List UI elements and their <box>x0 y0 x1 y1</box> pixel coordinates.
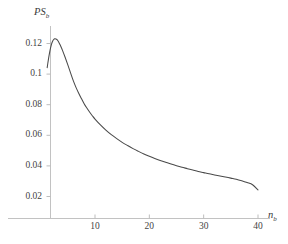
x-tick-label: 40 <box>246 221 270 231</box>
y-axis-title: PSb <box>34 6 49 20</box>
y-tick-label: 0.02 <box>8 191 42 201</box>
y-tick-label: 0.08 <box>8 99 42 109</box>
x-axis-title-subscript: b <box>273 215 277 223</box>
plot-area <box>0 0 288 244</box>
y-tick-label: 0.06 <box>8 129 42 139</box>
x-tick-label: 20 <box>137 221 161 231</box>
axes-group <box>8 26 270 219</box>
x-tick-label: 10 <box>83 221 107 231</box>
y-tick-label: 0.04 <box>8 160 42 170</box>
y-axis-title-subscript: b <box>46 12 50 20</box>
x-tick-marks <box>95 215 258 219</box>
x-axis-title: nb <box>268 209 277 223</box>
chart-figure: 0.020.040.060.080.10.12 10203040 PSb nb <box>0 0 288 244</box>
y-tick-label: 0.1 <box>8 68 42 78</box>
x-tick-label: 30 <box>192 221 216 231</box>
y-axis-title-base: PS <box>34 6 46 17</box>
y-tick-label: 0.12 <box>8 38 42 48</box>
data-series-line <box>47 39 258 190</box>
